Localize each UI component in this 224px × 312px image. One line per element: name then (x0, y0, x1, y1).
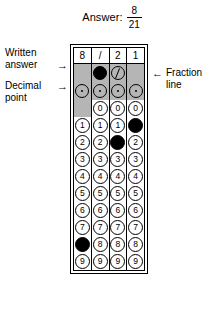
bubble-cell[interactable]: 6 (110, 202, 128, 219)
bubble-empty[interactable]: 5 (128, 186, 143, 201)
digit-row-8: 8888 (74, 236, 144, 253)
bubble-cell[interactable]: 9 (127, 253, 144, 270)
bubble-cell[interactable]: 7 (92, 219, 110, 236)
bubble-empty[interactable]: 7 (128, 220, 143, 235)
bubble-cell[interactable] (74, 82, 92, 100)
bubble-cell[interactable]: 6 (74, 202, 92, 219)
bubble-empty[interactable] (93, 84, 107, 98)
bubble-cell[interactable]: 5 (127, 185, 144, 202)
bubble-cell[interactable]: 7 (74, 219, 92, 236)
bubble-empty[interactable]: 9 (75, 254, 90, 269)
bubble-cell[interactable]: 9 (92, 253, 110, 270)
bubble-empty[interactable]: 0 (128, 101, 143, 116)
bubble-empty[interactable]: 2 (93, 135, 108, 150)
bubble-cell[interactable]: 1 (110, 117, 128, 134)
bubble-cell[interactable]: 3 (127, 151, 144, 168)
bubble-empty[interactable]: 5 (110, 186, 125, 201)
bubble-empty[interactable]: 6 (128, 203, 143, 218)
bubble-empty[interactable]: 8 (128, 237, 143, 252)
bubble-empty[interactable]: 3 (75, 152, 90, 167)
bubble-cell[interactable]: 4 (92, 168, 110, 185)
bubble-empty[interactable]: 9 (110, 254, 125, 269)
bubble-empty[interactable]: 6 (110, 203, 125, 218)
bubble-empty[interactable]: 5 (75, 186, 90, 201)
bubble-empty[interactable]: 8 (93, 237, 108, 252)
bubble-empty[interactable]: 4 (93, 169, 108, 184)
bubble-cell[interactable] (92, 64, 110, 82)
bubble-cell[interactable]: 0 (110, 100, 128, 117)
fraction-denominator: 21 (127, 19, 142, 30)
bubble-filled[interactable] (93, 66, 107, 80)
bubble-filled[interactable]: 1 (128, 118, 143, 133)
bubble-empty[interactable]: 1 (93, 118, 108, 133)
bubble-empty[interactable]: 9 (93, 254, 108, 269)
bubble-cell[interactable]: 2 (74, 134, 92, 151)
bubble-cell[interactable]: 8 (92, 236, 110, 253)
bubble-cell[interactable]: 7 (127, 219, 144, 236)
bubble-empty[interactable]: 7 (93, 220, 108, 235)
bubble-empty[interactable] (75, 84, 89, 98)
bubble-cell[interactable] (110, 82, 128, 100)
bubble-cell[interactable]: 6 (127, 202, 144, 219)
digit-row-5: 5555 (74, 185, 144, 202)
bubble-empty[interactable] (129, 84, 143, 98)
bubble-cell[interactable]: 3 (92, 151, 110, 168)
bubble-cell[interactable]: 0 (127, 100, 144, 117)
bubble-cell[interactable]: 4 (110, 168, 128, 185)
bubble-cell[interactable]: 5 (74, 185, 92, 202)
answer-header: Answer: 8 21 (0, 6, 224, 40)
bubble-cell[interactable]: 1 (127, 117, 144, 134)
bubble-empty[interactable]: 3 (93, 152, 108, 167)
annotation-fraction-line-text: Fraction line (163, 67, 202, 91)
bubble-empty[interactable]: 9 (128, 254, 143, 269)
bubble-cell[interactable]: 5 (110, 185, 128, 202)
bubble-cell[interactable]: 2 (92, 134, 110, 151)
fraction-line-row (74, 64, 144, 82)
bubble-empty[interactable]: 2 (128, 135, 143, 150)
bubble-cell[interactable] (110, 64, 128, 82)
bubble-cell[interactable]: 8 (127, 236, 144, 253)
written-answer-cell[interactable]: 8 (74, 48, 92, 63)
bubble-cell[interactable]: 4 (127, 168, 144, 185)
bubble-cell[interactable] (92, 82, 110, 100)
bubble-empty[interactable] (111, 66, 125, 80)
bubble-cell[interactable]: 0 (92, 100, 110, 117)
bubble-cell[interactable]: 2 (127, 134, 144, 151)
bubble-cell[interactable]: 7 (110, 219, 128, 236)
bubble-empty[interactable]: 4 (128, 169, 143, 184)
bubble-empty[interactable]: 6 (93, 203, 108, 218)
bubble-filled[interactable]: 2 (110, 135, 125, 150)
bubble-cell[interactable]: 8 (74, 236, 92, 253)
bubble-cell[interactable]: 6 (92, 202, 110, 219)
bubble-cell[interactable]: 3 (110, 151, 128, 168)
bubble-cell[interactable]: 2 (110, 134, 128, 151)
written-answer-cell[interactable]: 1 (127, 48, 144, 63)
bubble-empty[interactable]: 2 (75, 135, 90, 150)
bubble-empty[interactable]: 4 (110, 169, 125, 184)
bubble-empty[interactable]: 3 (110, 152, 125, 167)
bubble-cell[interactable]: 4 (74, 168, 92, 185)
bubble-cell[interactable]: 3 (74, 151, 92, 168)
bubble-empty[interactable]: 6 (75, 203, 90, 218)
bubble-cell[interactable] (127, 82, 144, 100)
bubble-cell[interactable]: 9 (74, 253, 92, 270)
bubble-empty[interactable]: 7 (75, 220, 90, 235)
bubble-filled[interactable]: 8 (75, 237, 90, 252)
bubble-empty[interactable]: 3 (128, 152, 143, 167)
bubble-empty[interactable]: 8 (110, 237, 125, 252)
bubble-empty[interactable]: 1 (75, 118, 90, 133)
bubble-empty[interactable]: 7 (110, 220, 125, 235)
bubble-empty[interactable] (111, 84, 125, 98)
bubble-empty[interactable]: 0 (110, 101, 125, 116)
written-answer-cell[interactable]: / (92, 48, 110, 63)
bubble-cell[interactable]: 8 (110, 236, 128, 253)
bubble-cell[interactable]: 9 (110, 253, 128, 270)
bubble-empty[interactable]: 5 (93, 186, 108, 201)
bubble-empty[interactable]: 4 (75, 169, 90, 184)
bubble-empty[interactable]: 0 (93, 101, 108, 116)
written-answer-cell[interactable]: 2 (110, 48, 128, 63)
bubble-cell[interactable]: 1 (74, 117, 92, 134)
bubble-cell[interactable]: 1 (92, 117, 110, 134)
bubble-cell[interactable]: 5 (92, 185, 110, 202)
bubble-empty[interactable]: 1 (110, 118, 125, 133)
